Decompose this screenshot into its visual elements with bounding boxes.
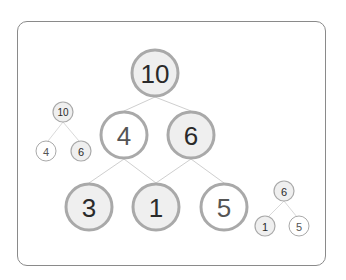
node-left: 4 bbox=[101, 112, 147, 158]
small-left-node-left: 4 bbox=[36, 141, 56, 161]
right-small-tree-edges bbox=[268, 201, 297, 217]
small-right-node-root: 6 bbox=[274, 181, 294, 201]
svg-text:6: 6 bbox=[281, 186, 287, 198]
small-right-node-right: 5 bbox=[289, 216, 309, 236]
svg-text:10: 10 bbox=[57, 107, 69, 118]
svg-text:1: 1 bbox=[149, 193, 163, 223]
small-left-node-right: 6 bbox=[71, 141, 91, 161]
svg-text:1: 1 bbox=[262, 221, 268, 233]
svg-text:4: 4 bbox=[43, 146, 49, 158]
node-right-right: 5 bbox=[201, 184, 247, 230]
svg-text:4: 4 bbox=[117, 121, 131, 151]
node-left-left: 3 bbox=[66, 184, 112, 230]
svg-text:6: 6 bbox=[184, 121, 198, 151]
small-right-node-left: 1 bbox=[255, 216, 275, 236]
svg-text:5: 5 bbox=[217, 193, 231, 223]
tree-diagram: 10 4 6 3 1 5 10 4 6 6 bbox=[0, 0, 346, 280]
svg-text:5: 5 bbox=[296, 221, 302, 233]
node-left-right: 1 bbox=[133, 184, 179, 230]
node-root: 10 bbox=[132, 50, 178, 96]
left-small-tree-edges bbox=[48, 122, 79, 141]
small-left-node-root: 10 bbox=[53, 102, 73, 122]
svg-text:3: 3 bbox=[82, 193, 96, 223]
svg-text:10: 10 bbox=[141, 59, 170, 89]
node-right: 6 bbox=[168, 112, 214, 158]
svg-text:6: 6 bbox=[78, 146, 84, 158]
